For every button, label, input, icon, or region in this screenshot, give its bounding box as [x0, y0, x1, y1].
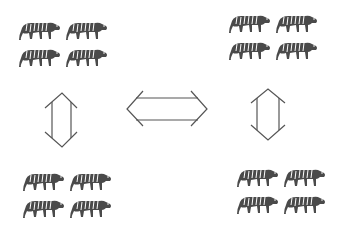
tiger-icon [228, 39, 272, 63]
tiger-icon [22, 197, 66, 221]
tiger-icon [22, 170, 66, 194]
double-arrow-horizontal-icon [124, 88, 210, 134]
tiger-icon [275, 39, 319, 63]
tiger-icon [283, 193, 327, 217]
tiger-icon [236, 193, 280, 217]
tiger-icon [18, 46, 62, 70]
double-arrow-vertical-right-icon [248, 87, 290, 143]
tiger-group-bottom-left [22, 170, 113, 221]
tiger-icon [69, 170, 113, 194]
tiger-icon [65, 19, 109, 43]
tiger-icon [65, 46, 109, 70]
tiger-icon [275, 12, 319, 36]
tiger-group-bottom-right [236, 166, 327, 217]
double-arrow-vertical-left-icon [40, 90, 82, 152]
tiger-group-top-right [228, 12, 319, 63]
tiger-icon [69, 197, 113, 221]
tiger-group-top-left [18, 19, 109, 70]
tiger-icon [236, 166, 280, 190]
tiger-icon [283, 166, 327, 190]
tiger-icon [228, 12, 272, 36]
tiger-icon [18, 19, 62, 43]
